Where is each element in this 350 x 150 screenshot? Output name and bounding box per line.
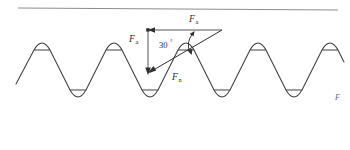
thread-waveform [16, 43, 344, 97]
right-tail-label: F [334, 93, 340, 102]
force-vector-triangle [145, 27, 222, 75]
axial-force-label-symbol: F [188, 13, 195, 24]
resultant-force-label-subscript: a [136, 38, 139, 45]
angle-arc-arrowhead-bottom [187, 49, 192, 55]
angle-label-value: 30 [159, 40, 168, 50]
horizontal-divider [18, 8, 338, 10]
normal-force-inclined-line [150, 30, 222, 72]
thread-force-diagram: F a F a F n 30 ° F [0, 0, 350, 150]
angle-arc-arrowhead-top [190, 31, 195, 36]
angle-label-unit: ° [170, 39, 172, 45]
normal-force-label-subscript: n [179, 76, 183, 83]
figure-canvas: F a F a F n 30 ° F [0, 0, 350, 150]
resultant-force-label-symbol: F [128, 33, 135, 44]
thread-profile [16, 43, 344, 97]
normal-force-label-symbol: F [171, 71, 178, 82]
axial-force-label-subscript: a [196, 18, 199, 25]
corner-node-marker [146, 28, 149, 31]
